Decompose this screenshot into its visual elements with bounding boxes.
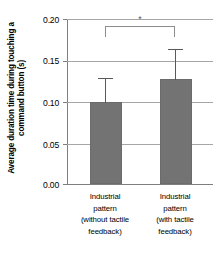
bar-chart: Average duration time during touching a …: [0, 0, 224, 256]
error-bar-cap-1: [98, 78, 113, 79]
y-tick-mark-0.00: [63, 184, 67, 185]
y-tick-mark-0.20: [63, 19, 67, 20]
category-label-2-line-4: feedback): [133, 226, 217, 238]
y-tick-label-4: 0.20: [43, 15, 59, 25]
category-label-2-line-2: pattern: [133, 203, 217, 215]
significance-bracket: [105, 26, 175, 37]
error-bar-stem-2: [175, 49, 176, 80]
y-axis-title-line-2: command button (s): [17, 22, 28, 174]
error-bar-stem-1: [105, 78, 106, 103]
category-label-2-line-3: (with tactile: [133, 214, 217, 226]
y-tick-label-3: 0.15: [43, 56, 59, 66]
significance-asterisk: *: [138, 15, 142, 23]
plot-area: *: [67, 19, 213, 185]
gridline-0.00-baseline: [67, 184, 213, 185]
y-tick-label-2: 0.10: [43, 98, 59, 108]
y-tick-mark-0.15: [63, 61, 67, 62]
y-axis-title: Average duration time during touching a …: [0, 0, 34, 196]
error-bar-cap-2: [168, 49, 183, 50]
category-label-2-line-1: Industrial: [133, 191, 217, 203]
y-tick-mark-0.05: [63, 144, 67, 145]
y-tick-label-1: 0.05: [43, 140, 59, 150]
x-axis-category-labels: Industrial pattern (without tactile feed…: [67, 191, 213, 255]
bar-industrial-with-tactile: [160, 79, 192, 184]
category-label-with-tactile: Industrial pattern (with tactile feedbac…: [133, 191, 217, 237]
y-tick-mark-0.10: [63, 102, 67, 103]
y-axis-tick-labels: 0.00 0.05 0.10 0.15 0.20: [30, 0, 63, 196]
gridline-0.15: [67, 61, 213, 62]
y-axis-title-line-1: Average duration time during touching a: [7, 22, 18, 174]
bar-industrial-without-tactile: [90, 102, 122, 184]
y-tick-label-0: 0.00: [43, 180, 59, 190]
